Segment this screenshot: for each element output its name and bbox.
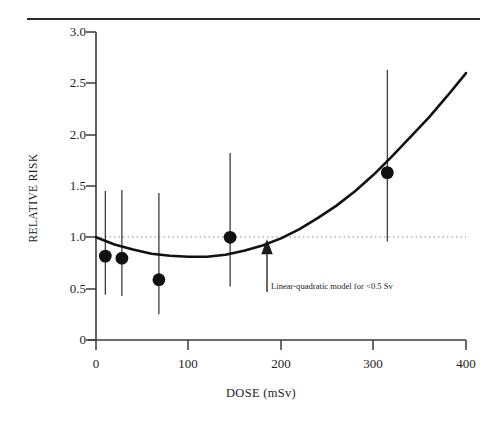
x-tick-label-100: 100 (168, 356, 208, 372)
x-tick-label-400: 400 (446, 356, 486, 372)
y-tick-label-2-0: 2.0 (52, 127, 86, 143)
y-axis-title: RELATIVE RISK (27, 138, 39, 258)
data-points (99, 166, 394, 286)
y-tick-label-0: 0 (52, 332, 86, 348)
model-annotation-label: Linear-quadratic model for <0.5 Sv (271, 281, 393, 291)
x-axis-title: DOSE (mSv) (226, 386, 296, 401)
data-point (381, 166, 394, 179)
x-axis-ticks (96, 340, 466, 350)
error-bars (105, 70, 387, 314)
figure-container: 3.0 2.5 2.0 1.5 1.0 0.5 0 0 100 200 300 … (0, 0, 502, 424)
data-point (116, 252, 129, 265)
data-point (153, 273, 166, 286)
model-curve (96, 73, 466, 257)
data-point (99, 250, 112, 263)
x-tick-label-300: 300 (353, 356, 393, 372)
y-tick-label-1-5: 1.5 (52, 178, 86, 194)
x-tick-label-200: 200 (261, 356, 301, 372)
y-tick-label-2-5: 2.5 (52, 75, 86, 91)
y-axis-ticks (86, 32, 96, 340)
data-point (224, 231, 237, 244)
x-tick-label-0: 0 (76, 356, 116, 372)
y-tick-label-1-0: 1.0 (52, 229, 86, 245)
y-tick-label-3-0: 3.0 (52, 24, 86, 40)
y-tick-label-0-5: 0.5 (52, 281, 86, 297)
